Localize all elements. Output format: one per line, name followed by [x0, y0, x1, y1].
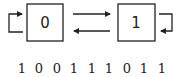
sequence-digit: 1 [105, 61, 113, 76]
sequence-digit: 0 [35, 61, 43, 76]
self-loop-arrow-state-0 [9, 14, 23, 32]
sequence-digit: 1 [70, 61, 78, 76]
state-1-node: 1 [118, 4, 155, 41]
binary-sequence: 1 0 0 1 1 1 0 1 1 [18, 61, 166, 76]
state-1-label: 1 [131, 14, 141, 32]
markov-chain-diagram: 0 1 1 0 0 1 1 1 0 1 1 [0, 0, 184, 77]
sequence-digit: 1 [18, 61, 26, 76]
state-0-label: 0 [40, 14, 50, 32]
sequence-digit: 0 [123, 61, 131, 76]
state-0-node: 0 [27, 4, 63, 41]
sequence-digit: 1 [140, 61, 148, 76]
sequence-digit: 1 [88, 61, 96, 76]
self-loop-arrow-state-1 [159, 14, 172, 31]
sequence-digit: 0 [53, 61, 61, 76]
sequence-digit: 1 [158, 61, 166, 76]
